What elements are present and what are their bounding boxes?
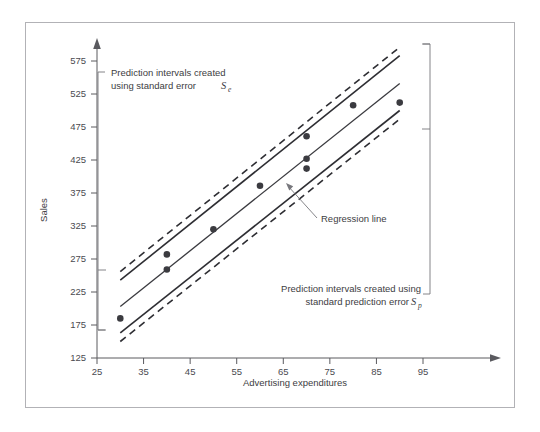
figure-container: 125175225275325375425475525575 253545556… [0,0,540,432]
figure-frame [25,22,515,408]
page-top-text-artifact [0,0,540,14]
